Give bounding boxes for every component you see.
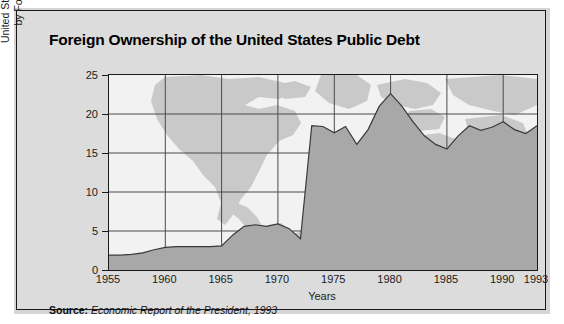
y-axis: 0510152025 (17, 74, 108, 270)
y-axis-title: United States Public Debt Held by Foreig… (0, 0, 25, 71)
x-axis-tick-label: 1975 (321, 273, 345, 285)
source-text: Economic Report of the President, 1993 (91, 304, 277, 316)
source-note: Source: Economic Report of the President… (49, 304, 277, 316)
plot-area (108, 74, 538, 271)
figure-panel: Foreign Ownership of the United States P… (16, 10, 546, 310)
x-axis-tick-label: 1985 (434, 273, 458, 285)
x-axis-tick-label: 1960 (152, 273, 176, 285)
y-axis-tick-label: 5 (92, 225, 98, 237)
y-axis-tick-label: 25 (86, 69, 98, 81)
y-axis-title-line2: by Foreigners (percent) (12, 0, 25, 71)
x-axis-title: Years (308, 290, 336, 302)
x-axis-tick-label: 1965 (208, 273, 232, 285)
figure-page: Foreign Ownership of the United States P… (0, 0, 564, 324)
y-axis-tick-label: 10 (86, 186, 98, 198)
y-axis-tick-label: 20 (86, 108, 98, 120)
page-title: Foreign Ownership of the United States P… (49, 31, 420, 49)
source-label: Source: (49, 304, 88, 316)
x-axis-tick-label: 1970 (265, 273, 289, 285)
x-axis-tick-label: 1993 (524, 273, 548, 285)
x-axis-tick-label: 1980 (377, 273, 401, 285)
x-axis-tick-label: 1955 (96, 273, 120, 285)
x-axis-tick-label: 1990 (490, 273, 514, 285)
y-axis-title-line1: United States Public Debt Held (0, 0, 12, 71)
area-chart-svg (109, 75, 537, 270)
y-axis-tick-label: 15 (86, 147, 98, 159)
